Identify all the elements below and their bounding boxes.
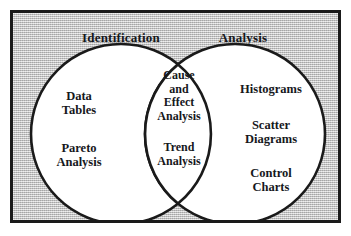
diagram-canvas: Identification Analysis Data Tables Pare…: [0, 0, 351, 236]
item-data-tables: Data Tables: [33, 89, 125, 117]
item-pareto-analysis: Pareto Analysis: [33, 141, 125, 169]
set-heading-identification: Identification: [61, 30, 181, 46]
item-trend-analysis: Trend Analysis: [150, 141, 208, 168]
set-heading-analysis: Analysis: [183, 30, 303, 46]
item-cause-and-effect-analysis: Cause and Effect Analysis: [150, 69, 208, 123]
item-scatter-diagrams: Scatter Diagrams: [221, 118, 321, 146]
diagram-frame: Identification Analysis Data Tables Pare…: [10, 10, 341, 223]
item-histograms: Histograms: [221, 82, 321, 96]
item-control-charts: Control Charts: [221, 166, 321, 194]
